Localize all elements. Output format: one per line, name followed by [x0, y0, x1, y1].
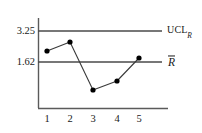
ucl-label: UCLR — [167, 25, 192, 38]
data-point-marker — [136, 55, 141, 60]
data-series-line — [47, 42, 139, 90]
x-tick-label-2: 2 — [67, 114, 72, 125]
data-point-marker — [67, 39, 72, 44]
x-tick-label-4: 4 — [114, 114, 119, 125]
ucl-label-text: UCL — [167, 24, 188, 35]
x-tick-label-1: 1 — [44, 114, 49, 125]
rbar-label-text: R — [168, 55, 175, 68]
rbar-label: R — [168, 55, 175, 68]
x-tick-label-3: 3 — [90, 114, 95, 125]
y-tick-label-center: 1.62 — [2, 57, 35, 68]
x-tick-label-5: 5 — [136, 114, 141, 125]
data-point-marker — [90, 87, 95, 92]
ucl-label-subscript: R — [187, 30, 192, 39]
range-control-chart: 3.25 1.62 1 2 3 4 5 UCLR R — [0, 0, 202, 133]
data-point-marker — [44, 48, 49, 53]
data-point-marker — [114, 78, 119, 83]
y-tick-label-upper: 3.25 — [2, 26, 35, 37]
